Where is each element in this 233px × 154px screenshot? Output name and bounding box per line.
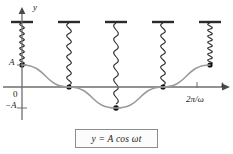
equation-box: y = A cos ωt — [75, 129, 158, 148]
y-tick-label-zero: 0 — [13, 90, 18, 99]
spring-5-coils — [208, 23, 213, 64]
shm-cosine-figure: y t A 0 −A 2π/ω y = A cos ωt — [0, 0, 233, 154]
y-tick-label-neg-A: −A — [5, 101, 17, 110]
equation-text: y = A cos ωt — [92, 134, 142, 144]
spring-4-coils — [161, 23, 166, 85]
spring-2 — [58, 22, 80, 90]
spring-2-coils — [67, 23, 72, 85]
t-axis-label: t — [221, 80, 224, 89]
y-axis-arrowhead — [19, 7, 26, 14]
t-tick-label-period: 2π/ω — [186, 95, 204, 104]
spring-3-coils — [114, 23, 119, 104]
y-axis-label: y — [33, 3, 37, 12]
spring-5 — [199, 22, 221, 68]
spring-3 — [105, 22, 127, 111]
spring-4 — [152, 22, 174, 90]
y-tick-label-A: A — [9, 58, 15, 67]
